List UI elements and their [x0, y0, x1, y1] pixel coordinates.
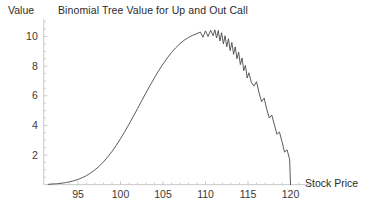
y-axis: 246810 [26, 19, 47, 185]
x-tick-label: 105 [154, 188, 172, 200]
y-tick-label: 8 [32, 60, 38, 72]
y-tick-label: 2 [32, 149, 38, 161]
x-tick-label: 95 [72, 188, 84, 200]
option-value-curve [48, 30, 290, 185]
plot-area: 246810 95100105110115120 [0, 0, 380, 220]
y-tick-label: 10 [26, 30, 38, 42]
chart-screenshot: Value Binomial Tree Value for Up and Out… [0, 0, 380, 220]
y-tick-label: 4 [32, 119, 38, 131]
x-tick-label: 110 [197, 188, 214, 200]
x-tick-label: 115 [240, 188, 257, 200]
x-tick-label: 120 [282, 188, 300, 200]
x-axis: 95100105110115120 [44, 181, 314, 200]
y-tick-label: 6 [32, 89, 38, 101]
x-tick-label: 100 [112, 188, 130, 200]
data-series-line [48, 30, 290, 185]
